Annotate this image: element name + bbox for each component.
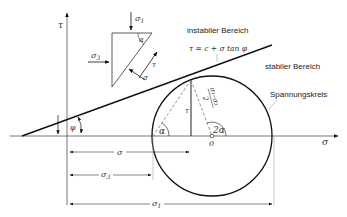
tau-axis-label: τ: [58, 20, 64, 30]
two-alpha-label: 2α: [212, 125, 225, 135]
instabil-label: instabiler Bereich: [187, 26, 248, 35]
sigma-axis-label: σ: [322, 137, 329, 147]
phi-label: φ: [70, 123, 76, 132]
dim-sigma-label: σ: [117, 148, 123, 157]
sigma3-left-label: σ3: [91, 51, 100, 61]
triangle-alpha-label: α: [139, 36, 144, 44]
origin-label: 0: [209, 139, 214, 148]
formula-label: τ = c + σ tan φ: [189, 44, 248, 53]
stabil-label: stabiler Bereich: [265, 62, 320, 71]
phi-arc: [78, 117, 81, 133]
tau-triangle-label: τ: [152, 61, 156, 69]
failure-envelope-line: [22, 45, 272, 136]
svg-text:2: 2: [201, 95, 210, 103]
circle-leader: [268, 100, 277, 110]
mohr-circle-diagram: τ σ α 2α 0 τ σ₁–σ₃ 2 φ α σ1 σ3 τ σ insta…: [0, 0, 347, 217]
circle-label: Spannungskreis: [270, 90, 327, 99]
tau-inner-label: τ: [185, 107, 189, 115]
radius-label: σ₁–σ₃ 2: [199, 86, 221, 110]
alpha-circle-label: α: [159, 126, 165, 136]
sigma1-top-label: σ1: [135, 14, 144, 24]
sigma-triangle-label: σ: [143, 74, 148, 82]
